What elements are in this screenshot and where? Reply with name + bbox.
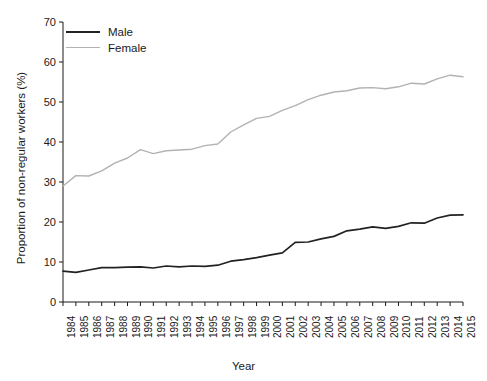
series-line-male xyxy=(63,215,463,273)
x-tick-label: 2011 xyxy=(415,316,425,338)
x-tick-label: 1999 xyxy=(261,316,271,338)
y-tick-label: 20 xyxy=(44,217,56,228)
y-tick-label: 0 xyxy=(50,297,56,308)
y-tick-label: 50 xyxy=(44,97,56,108)
y-tick-label: 30 xyxy=(44,177,56,188)
legend-item-female: Female xyxy=(66,40,186,56)
x-tick-label: 1995 xyxy=(209,316,219,338)
x-tick-label: 1985 xyxy=(80,316,90,338)
legend-swatch-icon xyxy=(66,47,100,48)
x-tick-label: 1989 xyxy=(132,316,142,338)
y-tick-label: 10 xyxy=(44,257,56,268)
x-tick-label: 2007 xyxy=(364,316,374,338)
x-tick-label: 1991 xyxy=(157,316,167,338)
x-tick-label: 1994 xyxy=(196,316,206,338)
x-tick-label: 2005 xyxy=(338,316,348,338)
y-tick-label: 60 xyxy=(44,57,56,68)
y-axis-title: Proportion of non-regular workers (%) xyxy=(15,43,27,293)
series-line-female xyxy=(63,75,463,186)
legend-label: Male xyxy=(108,24,133,40)
x-tick-label: 2010 xyxy=(402,316,412,338)
x-tick-label: 2013 xyxy=(441,316,451,338)
x-tick-label: 2014 xyxy=(454,316,464,338)
x-tick-label: 1984 xyxy=(67,316,77,338)
y-tick-label: 40 xyxy=(44,137,56,148)
x-tick-label: 1993 xyxy=(183,316,193,338)
x-axis-title: Year xyxy=(0,360,487,372)
x-tick-label: 2002 xyxy=(299,316,309,338)
x-tick-label: 1996 xyxy=(222,316,232,338)
legend-label: Female xyxy=(108,40,146,56)
x-axis-tick-labels: 1984198519861987198819891990199119921993… xyxy=(63,306,463,364)
x-tick-label: 2015 xyxy=(467,316,477,338)
x-tick-label: 1998 xyxy=(248,316,258,338)
legend-item-male: Male xyxy=(66,24,186,40)
x-tick-label: 1987 xyxy=(106,316,116,338)
y-tick-label: 70 xyxy=(44,17,56,28)
x-tick-label: 2001 xyxy=(286,316,296,338)
x-tick-label: 2006 xyxy=(351,316,361,338)
x-tick-label: 2009 xyxy=(390,316,400,338)
chart-legend: MaleFemale xyxy=(66,24,186,56)
axis-lines xyxy=(63,22,463,302)
x-tick-label: 2000 xyxy=(273,316,283,338)
x-tick-label: 1997 xyxy=(235,316,245,338)
x-tick-label: 1988 xyxy=(119,316,129,338)
x-tick-label: 1992 xyxy=(170,316,180,338)
x-tick-label: 2003 xyxy=(312,316,322,338)
axis-ticks xyxy=(59,22,463,306)
x-tick-label: 1990 xyxy=(144,316,154,338)
legend-swatch-icon xyxy=(66,31,100,33)
chart-container: 010203040506070 Proportion of non-regula… xyxy=(0,0,487,381)
series-lines xyxy=(63,75,463,272)
x-tick-label: 2004 xyxy=(325,316,335,338)
x-tick-label: 2012 xyxy=(428,316,438,338)
x-tick-label: 1986 xyxy=(93,316,103,338)
x-tick-label: 2008 xyxy=(377,316,387,338)
